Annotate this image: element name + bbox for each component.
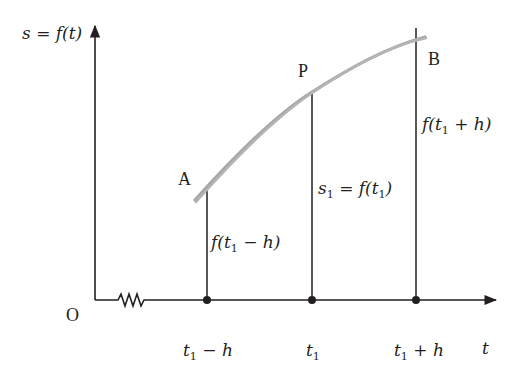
secant-diagram: s = f(t) O t A P B f(t1 − h) s1 = f(t1) … <box>0 0 525 380</box>
tick-dot-t1 <box>308 296 316 304</box>
ordinate-label-middle: s1 = f(t1) <box>318 180 392 200</box>
x-axis <box>95 294 496 306</box>
tick-label-t1-minus-h: t1 − h <box>183 342 233 362</box>
ordinate-label-right: f(t1 + h) <box>422 116 491 136</box>
tick-dot-t1-plus-h <box>412 296 420 304</box>
ordinate-label-left: f(t1 − h) <box>211 234 280 254</box>
y-axis-label: s = f(t) <box>22 25 82 42</box>
origin-label: O <box>66 306 79 324</box>
function-curve <box>195 37 425 200</box>
point-b-label: B <box>428 50 440 68</box>
point-p-label: P <box>298 62 308 80</box>
tick-dot-t1-minus-h <box>203 296 211 304</box>
x-axis-label: t <box>482 340 489 357</box>
tick-label-t1: t1 <box>306 342 320 362</box>
point-a-label: A <box>178 170 191 188</box>
tick-label-t1-plus-h: t1 + h <box>394 342 444 362</box>
